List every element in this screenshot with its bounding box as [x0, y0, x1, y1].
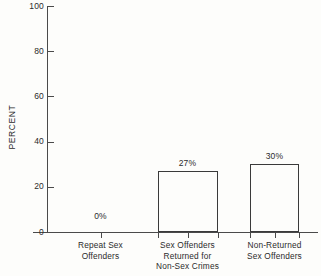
y-tick-label-wrap: 40 [14, 137, 44, 146]
x-tick-mark [250, 233, 251, 238]
y-tick-mark [48, 51, 54, 52]
bar [250, 164, 299, 232]
category-label-line: Returned for [144, 251, 231, 262]
y-tick-label: 20 [18, 182, 44, 191]
category-label: Repeat SexOffenders [57, 240, 144, 261]
y-tick-label-wrap: 80 [14, 47, 44, 56]
x-tick-mark [158, 233, 159, 238]
y-tick-mark [48, 232, 54, 233]
category-label-line: Non-Returned [231, 240, 318, 251]
y-tick-label-wrap: 20 [14, 182, 44, 191]
y-tick-label-wrap: 100 [14, 2, 44, 11]
bar-chart: PERCENT 020406080100 0%27%30% Repeat Sex… [0, 0, 321, 276]
category-label: Non-ReturnedSex Offenders [231, 240, 318, 261]
y-tick-mark [48, 96, 54, 97]
bar-value-label: 0% [81, 212, 121, 221]
x-tick-mark [188, 233, 189, 238]
category-label: Sex OffendersReturned forNon-Sex Crimes [144, 240, 231, 272]
y-tick-mark [48, 142, 54, 143]
bar [158, 171, 218, 232]
y-axis-line [47, 6, 48, 233]
category-label-line: Offenders [57, 251, 144, 262]
y-tick-label: 100 [18, 2, 44, 11]
y-tick-mark [48, 187, 54, 188]
y-tick-label: 40 [18, 137, 44, 146]
y-tick-label: 0 [18, 228, 44, 237]
x-tick-mark [275, 233, 276, 238]
bar-value-label: 27% [168, 159, 208, 168]
x-tick-mark [299, 233, 300, 238]
y-tick-label-wrap: 0 [14, 228, 44, 237]
y-axis-title: PERCENT [7, 97, 17, 157]
bar-value-label: 30% [255, 152, 295, 161]
x-tick-mark [101, 233, 102, 238]
x-tick-mark [218, 233, 219, 238]
category-label-line: Sex Offenders [231, 251, 318, 262]
category-label-line: Sex Offenders [144, 240, 231, 251]
y-tick-label: 80 [18, 47, 44, 56]
category-label-line: Non-Sex Crimes [144, 261, 231, 272]
y-tick-label-wrap: 60 [14, 92, 44, 101]
y-tick-label: 60 [18, 92, 44, 101]
y-tick-mark [48, 6, 54, 7]
category-label-line: Repeat Sex [57, 240, 144, 251]
